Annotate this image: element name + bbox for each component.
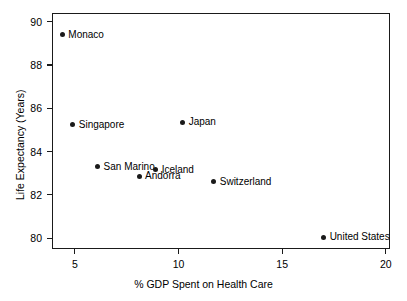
y-tick-label: 80 (16, 232, 42, 244)
x-tick-label: 15 (262, 258, 302, 270)
scatter-chart: 5101520 808284868890 MonacoSingaporeSan … (0, 0, 407, 301)
x-axis-title: % GDP Spent on Health Care (0, 278, 407, 290)
data-point (321, 235, 326, 240)
y-tick-mark (47, 151, 52, 152)
x-tick-label: 10 (158, 258, 198, 270)
x-tick-mark (178, 249, 179, 254)
y-tick-label: 90 (16, 16, 42, 28)
y-tick-mark (47, 21, 52, 22)
y-tick-label: 88 (16, 59, 42, 71)
y-tick-mark (47, 64, 52, 65)
plot-area (52, 13, 390, 249)
data-point (180, 120, 185, 125)
data-point (137, 174, 142, 179)
y-tick-mark (47, 108, 52, 109)
y-axis-title: Life Expectancy (Years) (14, 89, 26, 200)
x-tick-label: 20 (366, 258, 406, 270)
data-point-label: Iceland (162, 164, 194, 175)
data-point-label: Japan (189, 116, 216, 127)
x-tick-label: 5 (55, 258, 95, 270)
x-tick-mark (74, 249, 75, 254)
y-tick-mark (47, 238, 52, 239)
y-tick-mark (47, 194, 52, 195)
x-tick-mark (385, 249, 386, 254)
data-point (60, 32, 65, 37)
data-point-label: United States (330, 231, 390, 242)
data-point-label: Monaco (68, 29, 104, 40)
data-point-label: Singapore (79, 119, 125, 130)
x-tick-mark (282, 249, 283, 254)
data-point-label: Switzerland (220, 176, 272, 187)
